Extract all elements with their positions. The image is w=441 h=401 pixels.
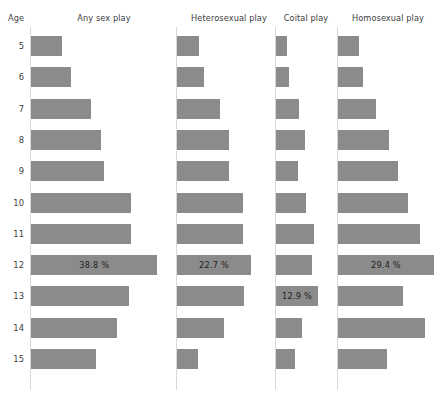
bar-any-sex-play-age-12: 38.8 % [31,255,157,275]
age-row-label: 13 [2,291,24,301]
bar-heterosexual-play-age-8 [177,130,229,150]
bar-heterosexual-play-age-9 [177,161,229,181]
bar-coital-play-age-15 [276,349,295,369]
bar-any-sex-play-age-15 [31,349,96,369]
bar-homosexual-play-age-12: 29.4 % [338,255,434,275]
bar-value-label: 29.4 % [338,260,434,270]
bar-heterosexual-play-age-15 [177,349,198,369]
bar-any-sex-play-age-8 [31,130,101,150]
bar-any-sex-play-age-13 [31,286,129,306]
bar-any-sex-play-age-6 [31,67,71,87]
bar-coital-play-age-7 [276,99,299,119]
bar-heterosexual-play-age-5 [177,36,199,56]
age-row-label: 8 [2,135,24,145]
column-header-any-sex-play: Any sex play [77,13,130,23]
bar-heterosexual-play-age-14 [177,318,224,338]
bar-heterosexual-play-age-12: 22.7 % [177,255,251,275]
bar-coital-play-age-13: 12.9 % [276,286,318,306]
bar-coital-play-age-8 [276,130,305,150]
age-row-label: 5 [2,41,24,51]
bar-homosexual-play-age-11 [338,224,420,244]
bar-coital-play-age-9 [276,161,298,181]
bar-any-sex-play-age-11 [31,224,131,244]
bar-homosexual-play-age-10 [338,193,408,213]
bar-homosexual-play-age-6 [338,67,363,87]
bar-heterosexual-play-age-11 [177,224,243,244]
bar-homosexual-play-age-8 [338,130,389,150]
column-header-homosexual-play: Homosexual play [352,13,424,23]
column-header-heterosexual-play: Heterosexual play [191,13,267,23]
bar-heterosexual-play-age-10 [177,193,243,213]
age-row-label: 15 [2,354,24,364]
bar-homosexual-play-age-15 [338,349,387,369]
bar-any-sex-play-age-14 [31,318,117,338]
bar-coital-play-age-11 [276,224,314,244]
bar-any-sex-play-age-9 [31,161,104,181]
bar-any-sex-play-age-10 [31,193,131,213]
bar-homosexual-play-age-7 [338,99,376,119]
column-header-coital-play: Coital play [284,13,329,23]
bar-homosexual-play-age-5 [338,36,359,56]
bar-heterosexual-play-age-6 [177,67,204,87]
bar-value-label: 22.7 % [177,260,251,270]
bar-homosexual-play-age-9 [338,161,398,181]
bar-homosexual-play-age-13 [338,286,403,306]
bar-value-label: 12.9 % [276,291,318,301]
bar-coital-play-age-12 [276,255,312,275]
bar-value-label: 38.8 % [31,260,157,270]
age-row-label: 12 [2,260,24,270]
bar-coital-play-age-14 [276,318,302,338]
bar-any-sex-play-age-5 [31,36,62,56]
age-row-label: 10 [2,198,24,208]
bar-coital-play-age-10 [276,193,306,213]
age-row-label: 6 [2,72,24,82]
bar-coital-play-age-5 [276,36,287,56]
bar-homosexual-play-age-14 [338,318,425,338]
age-row-label: 7 [2,104,24,114]
bar-heterosexual-play-age-13 [177,286,244,306]
bar-heterosexual-play-age-7 [177,99,220,119]
grouped-bar-chart: AgeAny sex playHeterosexual playCoital p… [0,0,441,401]
age-row-label: 11 [2,229,24,239]
age-row-label: 9 [2,166,24,176]
age-column-header: Age [8,13,24,23]
age-row-label: 14 [2,323,24,333]
bar-any-sex-play-age-7 [31,99,91,119]
bar-coital-play-age-6 [276,67,289,87]
